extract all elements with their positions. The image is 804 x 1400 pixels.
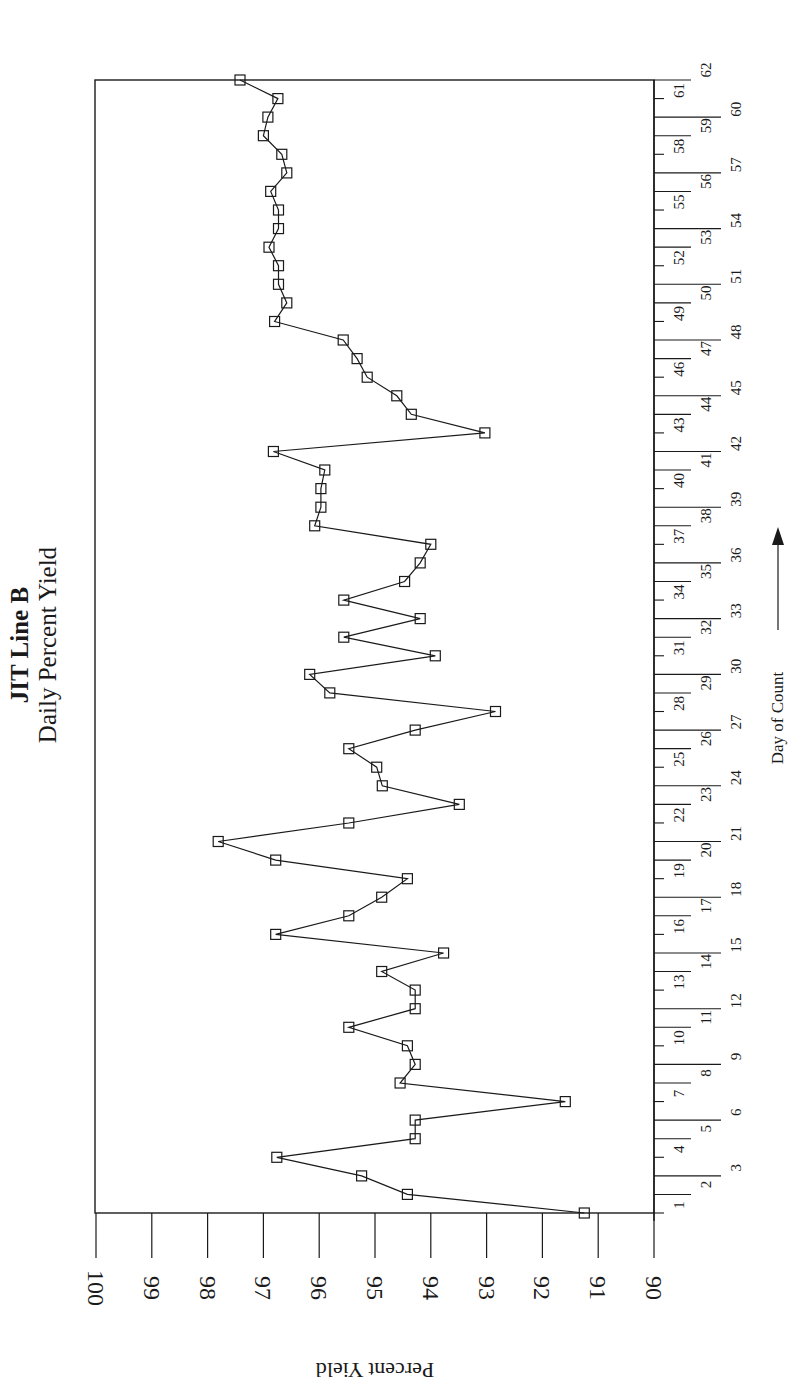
data-point-square-icon [344, 744, 354, 754]
data-point-square-icon [274, 261, 284, 271]
day-tick-label: 5 [698, 1125, 714, 1133]
data-point-square-icon [316, 502, 326, 512]
day-tick-label: 59 [698, 118, 714, 133]
day-tick-label: 43 [671, 417, 687, 432]
day-tick-label: 61 [671, 83, 687, 98]
day-axis: 1234567891011121314151617181920212223242… [654, 63, 744, 1222]
day-tick-label: 7 [671, 1089, 687, 1097]
day-tick-label: 6 [728, 1108, 744, 1116]
day-tick-label: 21 [728, 826, 744, 841]
data-point-square-icon [316, 484, 326, 494]
data-point-square-icon [264, 242, 274, 252]
day-tick-label: 16 [671, 918, 687, 934]
day-tick-label: 15 [728, 937, 744, 952]
data-point-square-icon [357, 1171, 367, 1181]
data-point-square-icon [395, 1078, 405, 1088]
day-tick-label: 47 [698, 341, 714, 357]
data-point-square-icon [415, 614, 425, 624]
data-point-square-icon [272, 1152, 282, 1162]
day-tick-label: 18 [728, 882, 744, 897]
yield-tick-label: 98 [195, 1276, 221, 1300]
day-tick-label: 50 [698, 285, 714, 300]
day-tick-label: 9 [728, 1053, 744, 1061]
day-tick-label: 38 [698, 508, 714, 523]
day-tick-label: 42 [728, 436, 744, 451]
data-point-square-icon [402, 1189, 412, 1199]
data-point-square-icon [402, 1041, 412, 1051]
data-point-square-icon [406, 409, 416, 419]
day-tick-label: 22 [671, 807, 687, 822]
day-tick-label: 3 [728, 1164, 744, 1172]
data-point-square-icon [480, 428, 490, 438]
data-point-square-icon [377, 781, 387, 791]
data-point-square-icon [402, 874, 412, 884]
chart-subtitle: Daily Percent Yield [34, 547, 62, 743]
day-tick-label: 30 [728, 659, 744, 674]
day-tick-label: 20 [698, 843, 714, 858]
day-tick-label: 23 [698, 787, 714, 802]
day-tick-label: 53 [698, 230, 714, 245]
data-point-square-icon [274, 224, 284, 234]
data-point-square-icon [320, 465, 330, 475]
day-tick-label: 44 [698, 396, 714, 412]
yield-tick-label: 96 [306, 1276, 332, 1300]
day-tick-label: 46 [671, 361, 687, 377]
day-tick-label: 49 [671, 306, 687, 321]
data-point-square-icon [270, 317, 280, 327]
day-tick-label: 35 [698, 564, 714, 579]
day-tick-label: 28 [671, 696, 687, 711]
arrow-head-icon [772, 527, 784, 545]
data-point-square-icon [344, 818, 354, 828]
day-tick-label: 14 [698, 954, 714, 970]
data-point-square-icon [271, 855, 281, 865]
day-tick-label: 27 [728, 714, 744, 730]
data-point-square-icon [410, 1115, 420, 1125]
day-tick-label: 48 [728, 325, 744, 340]
day-tick-label: 60 [728, 102, 744, 117]
data-point-square-icon [235, 75, 245, 85]
day-tick-label: 32 [698, 620, 714, 635]
day-tick-label: 40 [671, 473, 687, 488]
yield-axis-label: Percent Yield [316, 1357, 434, 1383]
plot-frame [95, 80, 654, 1213]
data-point-square-icon [439, 948, 449, 958]
data-point-square-icon [263, 112, 273, 122]
data-point-square-icon [579, 1208, 589, 1218]
data-point-square-icon [454, 799, 464, 809]
yield-tick-label: 100 [83, 1270, 109, 1306]
data-point-square-icon [338, 335, 348, 345]
data-point-square-icon [410, 1134, 420, 1144]
data-point-square-icon [305, 669, 315, 679]
day-tick-label: 4 [671, 1145, 687, 1153]
data-point-square-icon [282, 298, 292, 308]
day-direction-arrow [772, 527, 784, 630]
chart: 10099989796959493929190 1234567891011121… [0, 0, 804, 1400]
yield-tick-label: 90 [641, 1276, 667, 1300]
data-point-square-icon [344, 1022, 354, 1032]
day-tick-label: 26 [698, 731, 714, 747]
data-point-square-icon [491, 707, 501, 717]
day-tick-label: 29 [698, 675, 714, 690]
yield-series-markers [213, 75, 589, 1218]
data-point-square-icon [271, 929, 281, 939]
day-tick-label: 37 [671, 528, 687, 544]
data-point-square-icon [400, 577, 410, 587]
day-tick-label: 54 [728, 213, 744, 229]
day-tick-label: 55 [671, 195, 687, 210]
day-tick-label: 31 [671, 640, 687, 655]
data-point-square-icon [277, 149, 287, 159]
data-point-square-icon [362, 372, 372, 382]
day-tick-label: 13 [671, 975, 687, 990]
day-tick-label: 25 [671, 752, 687, 767]
day-tick-label: 2 [698, 1181, 714, 1189]
day-tick-label: 34 [671, 584, 687, 600]
data-point-square-icon [377, 892, 387, 902]
data-point-square-icon [339, 632, 349, 642]
data-point-square-icon [410, 985, 420, 995]
day-axis-label: Day of Count [768, 672, 788, 765]
yield-tick-label: 92 [529, 1276, 555, 1300]
data-point-square-icon [273, 94, 283, 104]
data-point-square-icon [310, 521, 320, 531]
data-point-square-icon [415, 558, 425, 568]
data-point-square-icon [274, 205, 284, 215]
